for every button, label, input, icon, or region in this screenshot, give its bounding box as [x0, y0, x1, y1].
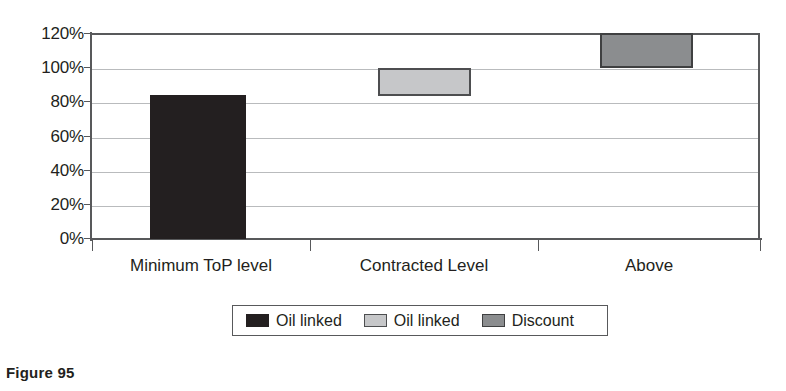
category-separator-1 — [310, 240, 311, 251]
y-axis-label-120: 120% — [2, 25, 84, 42]
x-axis-label-contracted-level: Contracted Level — [310, 256, 538, 276]
bar-contracted-level — [378, 68, 471, 96]
y-axis-label-100: 100% — [2, 59, 84, 76]
legend-item-discount: Discount — [482, 313, 574, 329]
y-axis-label-60: 60% — [2, 128, 84, 145]
chart-legend: Oil linked Oil linked Discount — [232, 305, 608, 336]
category-separator-2 — [538, 240, 539, 251]
bar-chart-figure: 120% 100% 80% 60% 40% 20% 0% Minimum ToP… — [0, 0, 786, 345]
y-axis-label-40: 40% — [2, 162, 84, 179]
x-axis-label-above: Above — [538, 256, 760, 276]
bar-minimum-top-level — [150, 95, 246, 239]
bar-above — [600, 33, 693, 68]
y-axis-label-80: 80% — [2, 93, 84, 110]
y-tick-120 — [84, 33, 91, 34]
category-separator-right — [760, 240, 761, 251]
category-separator-left — [92, 240, 93, 251]
legend-label-oil-linked-dark: Oil linked — [276, 313, 342, 329]
legend-swatch-icon-light — [364, 314, 387, 327]
legend-label-discount: Discount — [512, 313, 574, 329]
legend-swatch-icon-mid — [482, 314, 505, 327]
y-tick-0 — [84, 238, 91, 239]
y-axis-labels: 120% 100% 80% 60% 40% 20% 0% — [0, 0, 84, 260]
x-axis-label-minimum-top-level: Minimum ToP level — [92, 256, 310, 276]
legend-item-oil-linked-light: Oil linked — [364, 313, 460, 329]
y-tick-40 — [84, 170, 91, 171]
y-tick-100 — [84, 67, 91, 68]
y-axis-label-0: 0% — [2, 230, 84, 247]
y-tick-80 — [84, 101, 91, 102]
figure-caption: Figure 95 — [6, 364, 75, 381]
legend-swatch-icon-dark — [246, 314, 269, 327]
y-tick-20 — [84, 204, 91, 205]
y-tick-60 — [84, 136, 91, 137]
y-axis-label-20: 20% — [2, 196, 84, 213]
legend-item-oil-linked-dark: Oil linked — [246, 313, 342, 329]
legend-label-oil-linked-light: Oil linked — [394, 313, 460, 329]
